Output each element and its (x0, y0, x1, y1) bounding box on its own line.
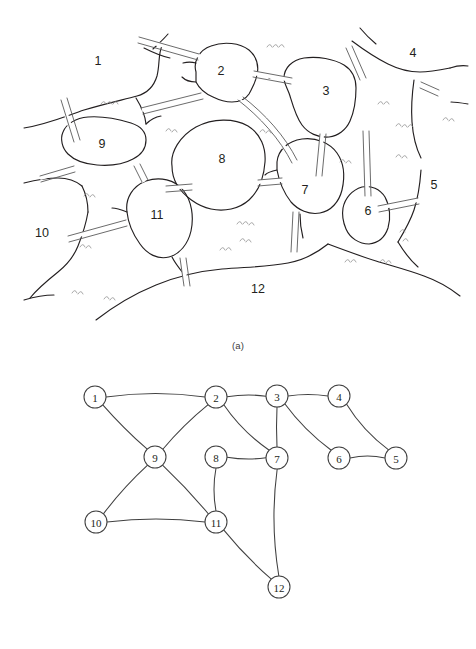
graph-node-2[interactable]: 2 (205, 386, 227, 408)
graph-node-label: 2 (213, 392, 219, 404)
map-region-label-10: 10 (35, 226, 49, 240)
map-region-label-4: 4 (410, 46, 417, 60)
graph-edge (346, 404, 388, 450)
graph-edge (214, 468, 216, 511)
graph-node-label: 8 (213, 452, 219, 464)
map-panel: 1 2 3 4 5 6 7 8 9 10 11 12 (a) (0, 0, 476, 345)
map-illustration: 1 2 3 4 5 6 7 8 9 10 11 12 (0, 0, 476, 345)
graph-edge (224, 530, 272, 579)
graph-node-3[interactable]: 3 (266, 385, 288, 407)
map-grass-tufts (72, 45, 454, 301)
map-region-label-8: 8 (219, 152, 226, 166)
graph-node-label: 9 (152, 452, 158, 464)
graph-edge (103, 405, 147, 449)
graph-panel: 123456789101112 (b) (0, 345, 476, 649)
map-region-labels: 1 2 3 4 5 6 7 8 9 10 11 12 (35, 46, 437, 296)
graph-edge (277, 407, 278, 447)
graph-node-10[interactable]: 10 (85, 511, 107, 533)
map-region-label-12: 12 (251, 282, 265, 296)
graph-node-label: 5 (393, 453, 399, 465)
graph-edge (163, 465, 209, 514)
map-region-label-11: 11 (151, 208, 164, 222)
graph-edge (288, 395, 328, 397)
map-region-label-1: 1 (95, 54, 102, 68)
map-region-label-9: 9 (99, 137, 106, 151)
graph-node-9[interactable]: 9 (144, 446, 166, 468)
graph-node-7[interactable]: 7 (266, 447, 288, 469)
graph-edge (224, 405, 269, 450)
graph-edge (106, 394, 205, 398)
graph-node-layer: 123456789101112 (84, 385, 407, 598)
graph-node-4[interactable]: 4 (328, 385, 350, 407)
graph-edge (227, 457, 266, 459)
figure-root: 1 2 3 4 5 6 7 8 9 10 11 12 (a) 123456789… (0, 0, 476, 649)
graph-edge (350, 456, 385, 458)
graph-node-label: 11 (211, 517, 222, 529)
graph-node-label: 6 (336, 453, 342, 465)
graph-edge (274, 469, 279, 576)
graph-illustration: 123456789101112 (0, 345, 476, 649)
graph-edge (107, 519, 205, 522)
graph-node-11[interactable]: 11 (205, 511, 227, 533)
graph-edge (103, 465, 147, 514)
graph-node-label: 3 (274, 391, 280, 403)
map-region-label-2: 2 (218, 64, 225, 78)
graph-edge (163, 405, 208, 450)
graph-node-label: 7 (274, 453, 280, 465)
graph-node-label: 1 (92, 392, 98, 404)
map-region-label-7: 7 (302, 183, 309, 197)
graph-edge (227, 395, 266, 397)
graph-node-8[interactable]: 8 (205, 446, 227, 468)
graph-node-1[interactable]: 1 (84, 386, 106, 408)
map-bridges (40, 37, 440, 286)
graph-node-label: 4 (336, 391, 342, 403)
graph-edge (285, 404, 331, 450)
graph-node-label: 12 (274, 582, 285, 594)
graph-node-6[interactable]: 6 (328, 447, 350, 469)
map-region-label-6: 6 (365, 204, 372, 218)
map-region-label-3: 3 (323, 84, 330, 98)
map-region-label-5: 5 (431, 178, 438, 192)
graph-node-12[interactable]: 12 (268, 576, 290, 598)
graph-node-5[interactable]: 5 (385, 447, 407, 469)
graph-node-label: 10 (91, 517, 103, 529)
map-coastlines (24, 28, 468, 320)
graph-edge-layer (103, 394, 389, 580)
